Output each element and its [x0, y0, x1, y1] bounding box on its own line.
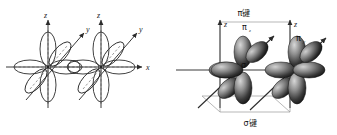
axis-label-y-atom2: y — [138, 25, 143, 34]
axis-label-z-atom1: z — [43, 11, 48, 20]
lobe-px-right-atom2 — [293, 62, 325, 78]
panel-outline-orbitals: x z y — [0, 0, 168, 135]
pi-z-label: π — [242, 23, 247, 32]
right-atom-2 — [265, 36, 326, 104]
axis-label-z-atom1: z — [223, 20, 228, 29]
left-diagram-svg: x z y — [0, 0, 168, 135]
nucleus-atom2 — [100, 66, 102, 68]
axis-x-left: x — [6, 63, 150, 72]
axis-label-y-atom1: y — [85, 25, 90, 34]
lobe-px-left-atom1 — [211, 62, 243, 78]
sigma-center-label: σ — [241, 61, 246, 70]
panel-shaded-orbitals: x z z y y — [168, 0, 337, 135]
right-diagram-svg: x z z y y — [168, 0, 337, 135]
pi-z-label-group: π z — [242, 23, 251, 33]
axis-label-z-atom2: z — [293, 20, 298, 29]
frame-line-diag-right — [272, 96, 290, 112]
left-atom-1: z y — [14, 11, 90, 108]
left-atom-2: z y — [67, 11, 143, 108]
orbital-overlap-figure: x z y — [0, 0, 337, 135]
nucleus-atom1 — [47, 66, 49, 68]
axis-label-x: x — [145, 63, 150, 72]
pi-y-subscript: y — [302, 39, 306, 44]
frame-line-diag-left — [202, 96, 220, 112]
pi-z-subscript: z — [248, 28, 251, 33]
pi-bond-top-label: π键 — [238, 8, 251, 18]
axis-label-z-atom2: z — [96, 11, 101, 20]
lobe-pz-down-atom1 — [234, 72, 252, 104]
sigma-bond-bottom-label: σ键 — [243, 118, 256, 128]
pi-y-label: π — [296, 34, 301, 43]
